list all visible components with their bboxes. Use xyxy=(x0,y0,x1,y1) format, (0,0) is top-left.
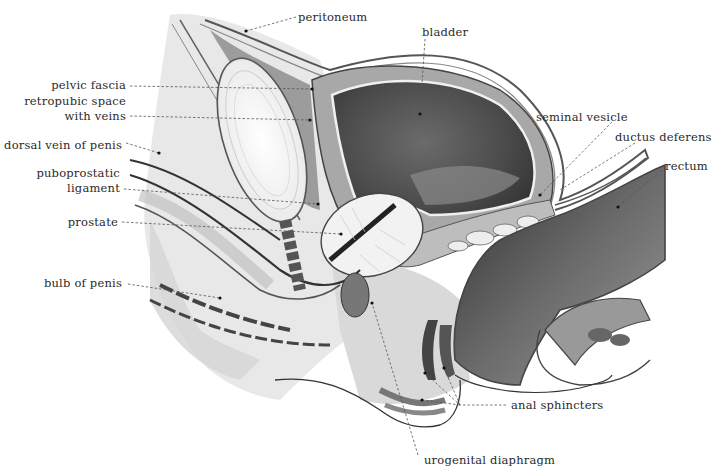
label-ductus-deferens: ductus deferens xyxy=(615,130,712,144)
label-urogenital-diaphragm: urogenital diaphragm xyxy=(424,453,555,467)
label-anal-sphincters: anal sphincters xyxy=(511,398,603,412)
label-seminal-vesicle: seminal vesicle xyxy=(536,110,628,124)
label-rectum: rectum xyxy=(665,159,708,173)
label-retropubic-space-line1: retropubic space xyxy=(24,94,126,108)
pelvis-illustration xyxy=(0,0,713,473)
label-dorsal-vein-of-penis: dorsal vein of penis xyxy=(4,138,122,152)
anatomy-figure: peritoneum bladder pelvic fascia retropu… xyxy=(0,0,713,473)
label-puboprostatic-line1: puboprostatic xyxy=(36,166,120,180)
label-retropubic-space-line2: with veins xyxy=(65,109,127,123)
label-puboprostatic-line2: ligament xyxy=(67,181,120,195)
label-prostate: prostate xyxy=(68,215,118,229)
label-pelvic-fascia: pelvic fascia xyxy=(51,78,126,92)
label-bladder: bladder xyxy=(422,25,468,39)
leader-peritoneum xyxy=(246,17,296,31)
label-bulb-of-penis: bulb of penis xyxy=(44,276,122,290)
label-peritoneum: peritoneum xyxy=(298,10,367,24)
